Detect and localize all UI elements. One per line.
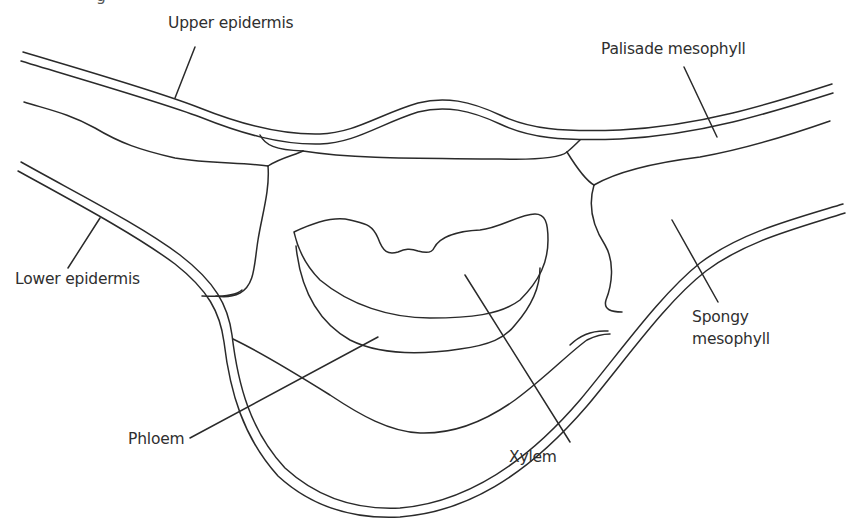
label-lower-epidermis: Lower epidermis <box>15 270 140 289</box>
cell-wall-right-lower-arc <box>570 331 608 345</box>
leader-upper-epidermis <box>175 47 195 98</box>
label-upper-epidermis: Upper epidermis <box>168 14 294 33</box>
label-spongy-mesophyll-line1: Spongy <box>692 308 749 327</box>
label-palisade-mesophyll: Palisade mesophyll <box>601 40 746 59</box>
label-phloem: Phloem <box>128 430 184 449</box>
leaf-cross-section-diagram: g <box>0 0 854 523</box>
palisade-boundary-left <box>24 102 268 166</box>
upper-epidermis-outline <box>21 52 833 144</box>
cell-wall-right-vertical-b <box>591 185 622 312</box>
leader-lower-epidermis <box>68 218 100 268</box>
leader-xylem <box>465 275 570 442</box>
leader-palisade-mesophyll <box>684 67 717 137</box>
cell-wall-left-vertical <box>216 166 268 297</box>
spongy-boundary-lower-left <box>233 334 610 433</box>
leader-phloem <box>190 337 378 438</box>
xylem-outline <box>294 214 548 318</box>
label-spongy-mesophyll-line2: mesophyll <box>692 330 770 349</box>
cell-wall-left-branch <box>268 151 303 166</box>
palisade-boundary-right <box>594 121 830 185</box>
leader-spongy-mesophyll <box>672 220 718 302</box>
palisade-boundary-middle <box>303 151 567 159</box>
cell-wall-right-junction <box>567 140 580 152</box>
label-xylem: Xylem <box>509 448 557 467</box>
cell-wall-right-vertical-a <box>567 152 594 185</box>
